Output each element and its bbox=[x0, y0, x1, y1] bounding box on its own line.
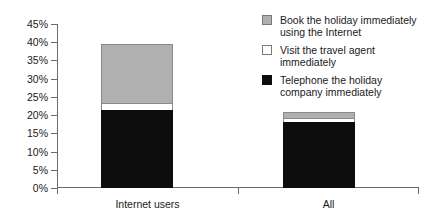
legend-label: Telephone the holiday company immediatel… bbox=[280, 74, 427, 98]
bar-all[interactable] bbox=[283, 112, 355, 189]
x-axis-label-internet-users: Internet users bbox=[57, 198, 238, 210]
legend-label: Visit the travel agent immediately bbox=[280, 44, 427, 68]
bar-segment-telephone bbox=[101, 110, 173, 188]
y-axis-tick-label: 10% bbox=[27, 147, 48, 158]
bar-segment-book-online bbox=[101, 44, 173, 104]
stacked-bar-chart: 45% 40% 35% 30% 25% 20% 15% 10% 5% 0% bbox=[0, 0, 429, 223]
y-axis-labels: 45% 40% 35% 30% 25% 20% 15% 10% 5% 0% bbox=[0, 0, 48, 223]
black-swatch-icon bbox=[262, 75, 272, 85]
bar-segment-telephone bbox=[283, 122, 355, 188]
y-axis-tick-label: 5% bbox=[33, 165, 48, 176]
y-axis-tick-label: 45% bbox=[27, 19, 48, 30]
legend-label: Book the holiday immediately using the I… bbox=[280, 14, 427, 38]
bar-segment-book-online bbox=[283, 112, 355, 119]
y-axis-tick-label: 30% bbox=[27, 74, 48, 85]
chart-legend: Book the holiday immediately using the I… bbox=[262, 14, 427, 104]
x-axis-tick bbox=[238, 188, 239, 194]
grey-swatch-icon bbox=[262, 15, 272, 25]
y-axis-tick-label: 0% bbox=[33, 183, 48, 194]
y-axis-tick-label: 40% bbox=[27, 37, 48, 48]
x-axis-tick bbox=[57, 188, 58, 194]
white-swatch-icon bbox=[262, 45, 272, 55]
legend-item-travel-agent[interactable]: Visit the travel agent immediately bbox=[262, 44, 427, 68]
legend-item-book-online[interactable]: Book the holiday immediately using the I… bbox=[262, 14, 427, 38]
y-axis-tick-label: 35% bbox=[27, 55, 48, 66]
y-axis-tick-label: 15% bbox=[27, 128, 48, 139]
y-axis-tick-label: 25% bbox=[27, 92, 48, 103]
y-axis-tick-label: 20% bbox=[27, 110, 48, 121]
legend-item-telephone[interactable]: Telephone the holiday company immediatel… bbox=[262, 74, 427, 98]
bar-internet-users[interactable] bbox=[101, 44, 173, 188]
x-axis-tick bbox=[418, 188, 419, 194]
x-axis-label-all: All bbox=[238, 198, 419, 210]
